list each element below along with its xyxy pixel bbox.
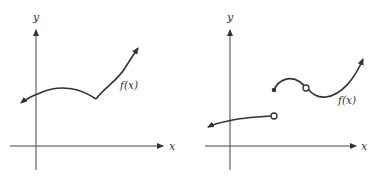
right-y-label: y (226, 11, 234, 24)
right-upper-piece-continued (308, 59, 363, 97)
left-curve-left-part (21, 88, 96, 103)
right-lower-piece (208, 116, 271, 127)
filled-dot-upper-start (272, 88, 277, 93)
left-graph: y x f(x) (10, 11, 176, 170)
right-curve-label: f(x) (337, 94, 356, 106)
right-x-label: x (361, 140, 368, 153)
right-upper-piece (274, 79, 306, 90)
left-curve-right-part (96, 48, 138, 99)
open-circle-lower-end (271, 113, 277, 119)
open-circle-removable (303, 85, 309, 91)
right-graph: y x f(x) (205, 11, 368, 170)
left-y-label: y (32, 11, 40, 24)
figure-canvas: y x f(x) y x f(x) (0, 0, 381, 181)
left-x-label: x (169, 140, 176, 153)
left-curve-label: f(x) (119, 79, 138, 91)
